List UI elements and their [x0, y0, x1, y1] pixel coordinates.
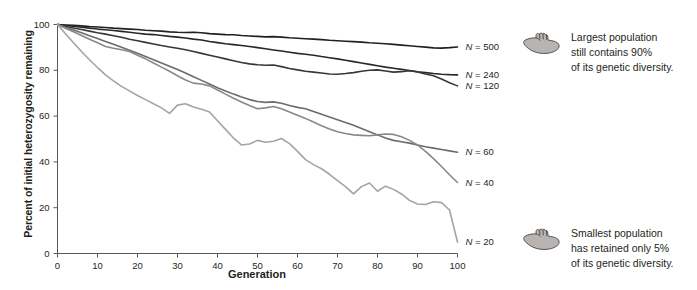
- series-line-20: [58, 25, 458, 243]
- x-tick-label: 30: [163, 260, 193, 271]
- y-tick-label: 80: [24, 64, 50, 75]
- series-line-120: [58, 25, 458, 86]
- y-tick-label: 100: [24, 19, 50, 30]
- y-tick-label: 20: [24, 202, 50, 213]
- x-tick-label: 20: [123, 260, 153, 271]
- x-tick-label: 60: [283, 260, 313, 271]
- annotation-text: Largest population still contains 90% of…: [571, 30, 674, 75]
- annotation-smallest-population: Smallest population has retained only 5%…: [522, 226, 674, 271]
- x-tick-label: 10: [83, 260, 113, 271]
- y-tick-label: 0: [24, 248, 50, 259]
- series-label-40: N = 40: [466, 177, 494, 188]
- x-tick-label: 50: [243, 260, 273, 271]
- x-tick-label: 70: [323, 260, 353, 271]
- x-tick-label: 40: [203, 260, 233, 271]
- chart-figure: Percent of initial heterozygosity remain…: [0, 0, 697, 290]
- annotation-text: Smallest population has retained only 5%…: [571, 226, 674, 271]
- pointing-hand-icon: [522, 31, 562, 57]
- series-line-60: [58, 25, 458, 153]
- series-label-240: N = 240: [466, 69, 500, 80]
- series-label-500: N = 500: [466, 41, 500, 52]
- x-tick-label: 100: [443, 260, 473, 271]
- annotation-line-1: Largest population: [571, 30, 674, 45]
- pointing-hand-icon: [522, 227, 562, 253]
- annotation-line-2: still contains 90%: [571, 45, 674, 60]
- x-tick-label: 80: [363, 260, 393, 271]
- x-tick-label: 0: [43, 260, 73, 271]
- annotation-line-3: of its genetic diversity.: [571, 256, 674, 271]
- x-tick-label: 90: [403, 260, 433, 271]
- annotation-line-2: has retained only 5%: [571, 241, 674, 256]
- annotation-largest-population: Largest population still contains 90% of…: [522, 30, 674, 75]
- y-tick-label: 60: [24, 110, 50, 121]
- annotation-line-3: of its genetic diversity.: [571, 60, 674, 75]
- series-label-60: N = 60: [466, 146, 494, 157]
- series-label-120: N = 120: [466, 80, 500, 91]
- series-label-20: N = 20: [466, 236, 494, 247]
- y-tick-label: 40: [24, 156, 50, 167]
- annotation-line-1: Smallest population: [571, 226, 674, 241]
